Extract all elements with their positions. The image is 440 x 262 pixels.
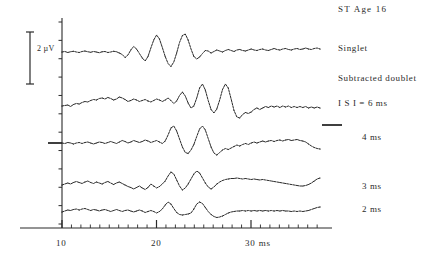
trace-sample-dot	[159, 38, 160, 39]
trace-sample-dot	[251, 210, 252, 211]
trace-sample-dot	[285, 210, 286, 211]
trace-sample-dot	[291, 49, 292, 50]
trace-sample-dot	[125, 99, 126, 100]
trace-sample-dot	[61, 51, 62, 52]
trace-sample-dot	[319, 177, 320, 178]
trace-sample-dot	[170, 171, 171, 172]
waveform-trace	[61, 34, 320, 67]
traces-layer	[48, 34, 342, 218]
trace-sample-dot	[308, 210, 309, 211]
trace-sample-dot	[142, 57, 143, 58]
trace-sample-dot	[211, 52, 212, 53]
trace-sample-dot	[291, 184, 292, 185]
trace-sample-dot	[84, 50, 85, 51]
trace-sample-dot	[211, 109, 212, 110]
trace-sample-dot	[297, 211, 298, 212]
trace-sample-dot	[211, 146, 212, 147]
trace-sample-dot	[153, 39, 154, 40]
trace-sample-dot	[67, 182, 68, 183]
trace-sample-dot	[222, 180, 223, 181]
trace-sample-dot	[239, 117, 240, 118]
trace-sample-dot	[285, 139, 286, 140]
trace-sample-dot	[147, 187, 148, 188]
trace-sample-dot	[119, 96, 120, 97]
trace-sample-dot	[199, 201, 200, 202]
trace-sample-dot	[274, 141, 275, 142]
trace-sample-dot	[274, 106, 275, 107]
trace-sample-dot	[245, 143, 246, 144]
trace-sample-dot	[176, 130, 177, 131]
trace-sample-dot	[199, 56, 200, 57]
trace-sample-dot	[279, 210, 280, 211]
trace-sample-dot	[73, 209, 74, 210]
trace-sample-dot	[73, 104, 74, 105]
eeg-figure-panel: ST Age 16 2 µV Singlet Subtracted double…	[0, 0, 440, 262]
trace-sample-dot	[308, 48, 309, 49]
trace-sample-dot	[314, 208, 315, 209]
trace-sample-dot	[90, 210, 91, 211]
trace-sample-dot	[147, 56, 148, 57]
trace-sample-dot	[279, 107, 280, 108]
trace-sample-dot	[228, 178, 229, 179]
trace-sample-dot	[262, 210, 263, 211]
trace-sample-dot	[239, 49, 240, 50]
trace-sample-dot	[113, 210, 114, 211]
trace-sample-dot	[79, 52, 80, 53]
trace-label-isi-6ms: I S I = 6 ms	[338, 98, 388, 108]
trace-sample-dot	[79, 209, 80, 210]
trace-sample-dot	[274, 181, 275, 182]
trace-sample-dot	[147, 211, 148, 212]
trace-sample-dot	[205, 129, 206, 130]
trace-sample-dot	[67, 142, 68, 143]
trace-sample-dot	[107, 181, 108, 182]
trace-sample-dot	[262, 179, 263, 180]
trace-sample-dot	[130, 187, 131, 188]
trace-sample-dot	[199, 87, 200, 88]
trace-sample-dot	[113, 184, 114, 185]
trace-sample-dot	[125, 141, 126, 142]
trace-sample-dot	[211, 214, 212, 215]
trace-sample-dot	[193, 144, 194, 145]
trace-sample-dot	[142, 141, 143, 142]
trace-sample-dot	[319, 107, 320, 108]
trace-sample-dot	[297, 48, 298, 49]
trace-sample-dot	[262, 107, 263, 108]
trace-sample-dot	[73, 182, 74, 183]
trace-sample-dot	[319, 148, 320, 149]
trace-sample-dot	[228, 149, 229, 150]
trace-sample-dot	[314, 147, 315, 148]
trace-sample-dot	[193, 105, 194, 106]
trace-sample-dot	[205, 89, 206, 90]
trace-path	[62, 126, 320, 155]
trace-sample-dot	[211, 188, 212, 189]
trace-sample-dot	[165, 140, 166, 141]
trace-sample-dot	[96, 181, 97, 182]
trace-sample-dot	[119, 181, 120, 182]
trace-sample-dot	[119, 210, 120, 211]
trace-sample-dot	[228, 212, 229, 213]
trace-sample-dot	[216, 183, 217, 184]
waveform-plot	[0, 0, 440, 262]
trace-sample-dot	[130, 100, 131, 101]
waveform-trace	[61, 201, 320, 218]
trace-sample-dot	[222, 89, 223, 90]
trace-sample-dot	[90, 100, 91, 101]
trace-sample-dot	[96, 209, 97, 210]
trace-sample-dot	[274, 48, 275, 49]
trace-sample-dot	[96, 99, 97, 100]
trace-sample-dot	[256, 210, 257, 211]
trace-sample-dot	[96, 142, 97, 143]
trace-sample-dot	[165, 204, 166, 205]
trace-sample-dot	[314, 48, 315, 49]
trace-label-isi-4ms: 4 ms	[362, 132, 382, 142]
trace-sample-dot	[136, 99, 137, 100]
trace-sample-dot	[188, 39, 189, 40]
trace-sample-dot	[222, 215, 223, 216]
trace-sample-dot	[268, 210, 269, 211]
trace-sample-dot	[176, 179, 177, 180]
trace-sample-dot	[84, 101, 85, 102]
trace-sample-dot	[268, 107, 269, 108]
axis-tick-label-20: 20	[151, 238, 162, 248]
axis-tick-label-10: 10	[56, 238, 67, 248]
trace-sample-dot	[67, 52, 68, 53]
